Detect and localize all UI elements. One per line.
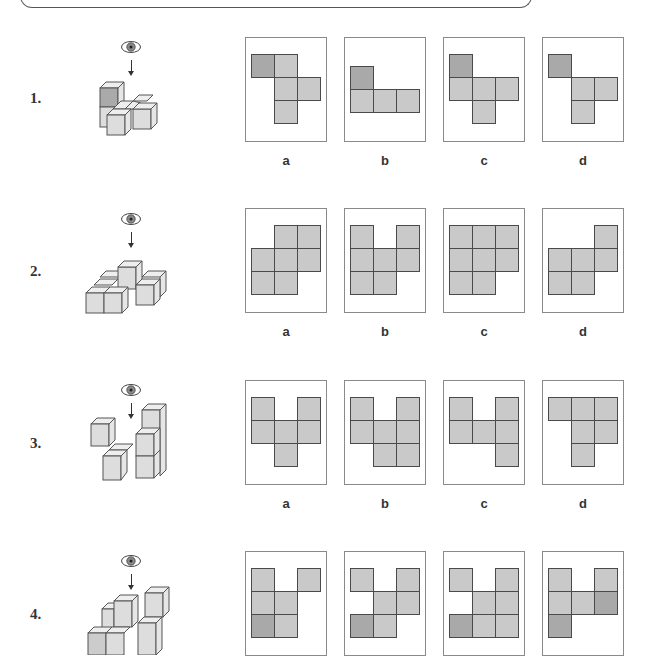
option-d-label: d	[542, 324, 624, 339]
face-cell	[472, 420, 496, 444]
shaded-face-cell	[449, 614, 473, 638]
face-cell	[297, 77, 321, 101]
face-cell	[472, 271, 496, 295]
option-d-box[interactable]	[542, 208, 624, 313]
face-cell	[571, 77, 595, 101]
face-cell	[373, 89, 397, 113]
face-cell	[472, 614, 496, 638]
option-a-label: a	[245, 496, 327, 511]
face-cell	[274, 420, 298, 444]
face-cell	[373, 420, 397, 444]
face-cell	[571, 397, 595, 421]
face-cell	[594, 420, 618, 444]
face-cell	[251, 420, 275, 444]
face-cell	[594, 568, 618, 592]
shaded-face-cell	[594, 591, 618, 615]
face-cell	[350, 89, 374, 113]
shaded-face-cell	[548, 614, 572, 638]
option-b-box[interactable]	[344, 37, 426, 142]
face-cell	[449, 420, 473, 444]
option-c-box[interactable]	[443, 37, 525, 142]
face-cell	[571, 443, 595, 467]
face-cell	[449, 248, 473, 272]
face-cell	[350, 397, 374, 421]
option-c-label: c	[443, 153, 525, 168]
cube-figure-4	[82, 585, 182, 655]
face-cell	[350, 225, 374, 249]
face-cell	[251, 397, 275, 421]
face-cell	[548, 271, 572, 295]
question-number: 2.	[30, 263, 41, 280]
face-cell	[396, 591, 420, 615]
face-cell	[396, 397, 420, 421]
face-cell	[251, 568, 275, 592]
question-number: 4.	[30, 606, 41, 623]
face-cell	[449, 397, 473, 421]
face-cell	[472, 100, 496, 124]
option-d-box[interactable]	[542, 380, 624, 485]
option-b-label: b	[344, 496, 426, 511]
eye-icon	[121, 213, 141, 225]
option-c-box[interactable]	[443, 551, 525, 656]
face-cell	[548, 397, 572, 421]
face-cell	[274, 614, 298, 638]
face-cell	[373, 443, 397, 467]
option-b-box[interactable]	[344, 380, 426, 485]
option-a-box[interactable]	[245, 37, 327, 142]
face-cell	[251, 271, 275, 295]
face-cell	[594, 225, 618, 249]
eye-icon	[121, 555, 141, 567]
face-cell	[274, 54, 298, 78]
face-cell	[274, 443, 298, 467]
shaded-face-cell	[251, 54, 275, 78]
option-c-label: c	[443, 496, 525, 511]
face-cell	[548, 248, 572, 272]
face-cell	[472, 77, 496, 101]
option-a-box[interactable]	[245, 380, 327, 485]
view-direction-arrow	[131, 232, 132, 244]
face-cell	[373, 591, 397, 615]
cube-figure-1	[95, 80, 175, 160]
face-cell	[350, 568, 374, 592]
option-b-box[interactable]	[344, 551, 426, 656]
face-cell	[297, 420, 321, 444]
face-cell	[571, 100, 595, 124]
question-number: 3.	[30, 435, 41, 452]
face-cell	[251, 248, 275, 272]
face-cell	[396, 420, 420, 444]
option-d-box[interactable]	[542, 551, 624, 656]
face-cell	[297, 568, 321, 592]
option-b-label: b	[344, 324, 426, 339]
option-a-box[interactable]	[245, 208, 327, 313]
face-cell	[274, 271, 298, 295]
face-cell	[571, 271, 595, 295]
option-d-label: d	[542, 153, 624, 168]
face-cell	[495, 77, 519, 101]
face-cell	[274, 591, 298, 615]
face-cell	[495, 614, 519, 638]
face-cell	[396, 248, 420, 272]
shaded-face-cell	[251, 614, 275, 638]
face-cell	[449, 271, 473, 295]
option-c-box[interactable]	[443, 380, 525, 485]
option-d-box[interactable]	[542, 37, 624, 142]
option-a-label: a	[245, 153, 327, 168]
face-cell	[373, 614, 397, 638]
option-a-box[interactable]	[245, 551, 327, 656]
face-cell	[396, 89, 420, 113]
option-c-box[interactable]	[443, 208, 525, 313]
face-cell	[396, 225, 420, 249]
face-cell	[449, 225, 473, 249]
face-cell	[571, 591, 595, 615]
face-cell	[396, 443, 420, 467]
instruction-frame	[20, 0, 532, 8]
shaded-face-cell	[548, 54, 572, 78]
cube-figure-3	[85, 400, 185, 495]
face-cell	[571, 248, 595, 272]
face-cell	[594, 248, 618, 272]
shaded-face-cell	[449, 54, 473, 78]
face-cell	[548, 591, 572, 615]
face-cell	[350, 248, 374, 272]
option-b-box[interactable]	[344, 208, 426, 313]
face-cell	[297, 397, 321, 421]
